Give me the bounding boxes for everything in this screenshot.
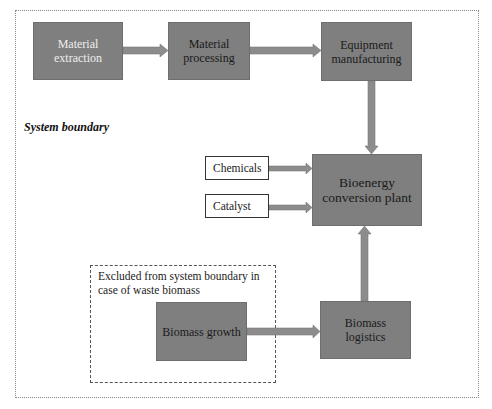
- node-label: Biomass growth: [162, 325, 240, 339]
- node-label: Chemicals: [213, 162, 262, 174]
- node-chemicals: Chemicals: [205, 156, 269, 180]
- node-label: Material extraction: [48, 37, 108, 65]
- node-biomass-growth: Biomass growth: [156, 302, 247, 361]
- node-label: Bioenergy conversion plant: [319, 175, 415, 205]
- node-label: Biomass logistics: [341, 316, 391, 344]
- node-label: Equipment manufacturing: [327, 38, 407, 66]
- arrow-growth-to-logistics: [247, 325, 320, 338]
- node-material-extraction: Material extraction: [33, 22, 123, 80]
- node-equipment-manufacturing: Equipment manufacturing: [321, 22, 412, 81]
- arrow-extraction-to-processing: [123, 44, 168, 57]
- node-material-processing: Material processing: [168, 22, 250, 80]
- arrow-equipment-to-plant: [365, 81, 378, 154]
- node-label: Catalyst: [213, 200, 251, 212]
- node-bioenergy-conversion-plant: Bioenergy conversion plant: [312, 154, 422, 226]
- arrow-catalyst-to-plant: [269, 202, 312, 213]
- arrow-processing-to-equipment: [250, 44, 321, 57]
- node-catalyst: Catalyst: [205, 194, 269, 218]
- arrow-logistics-to-plant: [358, 226, 371, 301]
- arrow-chemicals-to-plant: [269, 163, 312, 174]
- node-label: Material processing: [179, 37, 239, 65]
- node-biomass-logistics: Biomass logistics: [320, 301, 411, 359]
